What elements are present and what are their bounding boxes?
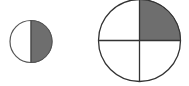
fraction-diagram bbox=[0, 0, 189, 86]
large-circle-shaded-quarter bbox=[140, 0, 181, 41]
small-circle-shaded-half bbox=[31, 21, 52, 63]
quarter-shaded-circle bbox=[99, 0, 181, 82]
half-shaded-circle bbox=[10, 21, 52, 63]
